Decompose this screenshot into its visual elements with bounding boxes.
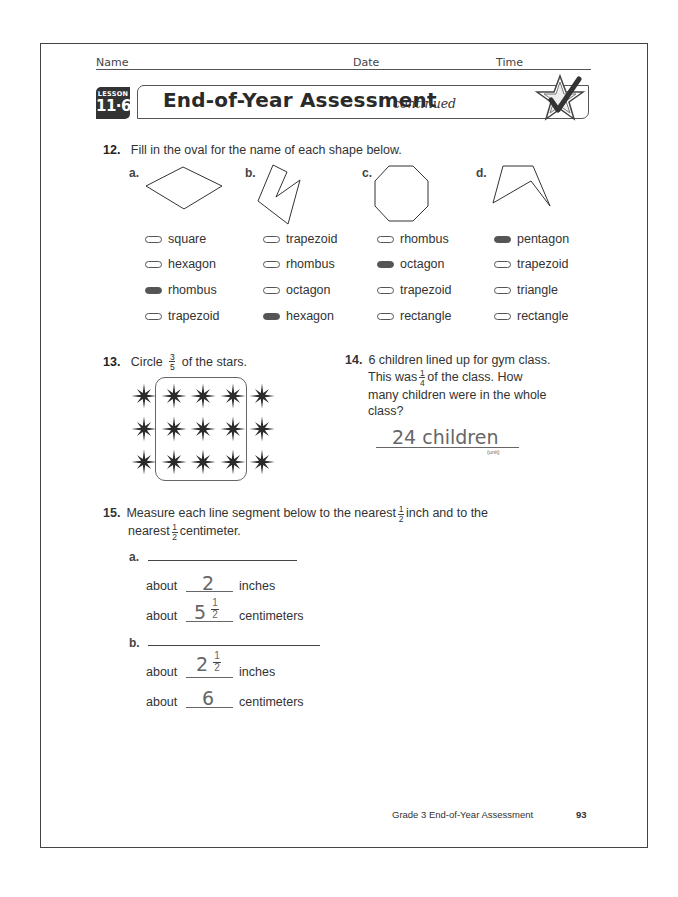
option-label: trapezoid bbox=[286, 232, 337, 246]
option-label: trapezoid bbox=[517, 257, 568, 271]
q12-prompt-row: 12. Fill in the oval for the name of eac… bbox=[103, 140, 402, 158]
q15b-inches-answer-whole[interactable]: 2 bbox=[196, 653, 208, 675]
star-icon bbox=[161, 449, 187, 475]
fraction-denominator: 2 bbox=[212, 610, 218, 620]
option-label: rectangle bbox=[400, 309, 451, 323]
q15b-cm-unit: centimeters bbox=[239, 695, 304, 709]
option-b-octagon[interactable]: octagon bbox=[263, 283, 330, 297]
q15b-inches-prefix: about bbox=[146, 665, 177, 679]
oval-radio[interactable] bbox=[145, 236, 162, 243]
option-c-rhombus[interactable]: rhombus bbox=[377, 232, 449, 246]
option-b-rhombus[interactable]: rhombus bbox=[263, 257, 335, 271]
oval-radio[interactable] bbox=[494, 261, 511, 268]
star-icon bbox=[220, 416, 246, 442]
option-d-pentagon[interactable]: pentagon bbox=[494, 232, 569, 246]
q15b-inches-answer-fraction[interactable]: 12 bbox=[213, 651, 221, 673]
q13-prompt-row: 13. Circle 35 of the stars. bbox=[103, 352, 247, 371]
oval-radio-filled[interactable] bbox=[145, 287, 162, 294]
fraction-denominator: 4 bbox=[420, 379, 425, 387]
option-label: square bbox=[168, 232, 206, 246]
page-number: 93 bbox=[576, 809, 587, 820]
star-icon bbox=[131, 416, 157, 442]
option-label: rectangle bbox=[517, 309, 568, 323]
q14-answer[interactable]: 24 children bbox=[392, 426, 498, 448]
q15-fraction-1: 12 bbox=[398, 505, 404, 523]
q15-line1-after: inch and to the bbox=[406, 506, 488, 520]
star-icon bbox=[161, 383, 187, 409]
fraction-numerator: 1 bbox=[212, 598, 218, 608]
q13-prompt-after: of the stars. bbox=[182, 355, 247, 369]
option-label: triangle bbox=[517, 283, 558, 297]
oval-radio[interactable] bbox=[145, 313, 162, 320]
option-d-rectangle[interactable]: rectangle bbox=[494, 309, 568, 323]
q14-line3: many children were in the whole bbox=[345, 387, 550, 404]
q14-line4: class? bbox=[345, 403, 550, 420]
fraction-numerator: 1 bbox=[172, 523, 177, 531]
q13-fraction: 35 bbox=[169, 353, 175, 371]
q15-block: 15.Measure each line segment below to th… bbox=[103, 505, 488, 541]
option-b-hexagon[interactable]: hexagon bbox=[263, 309, 334, 323]
star-icon bbox=[190, 383, 216, 409]
option-a-trapezoid[interactable]: trapezoid bbox=[145, 309, 219, 323]
option-label: octagon bbox=[286, 283, 330, 297]
star-icon bbox=[131, 383, 157, 409]
option-d-trapezoid[interactable]: trapezoid bbox=[494, 257, 568, 271]
oval-radio-filled[interactable] bbox=[377, 261, 394, 268]
q12-letter-d: d. bbox=[476, 166, 487, 180]
oval-radio-filled[interactable] bbox=[494, 236, 511, 243]
fraction-numerator: 1 bbox=[399, 505, 404, 513]
oval-radio[interactable] bbox=[494, 287, 511, 294]
option-b-trapezoid[interactable]: trapezoid bbox=[263, 232, 337, 246]
oval-radio-filled[interactable] bbox=[263, 313, 280, 320]
option-c-octagon[interactable]: octagon bbox=[377, 257, 444, 271]
q15-letter-b: b. bbox=[129, 636, 140, 650]
fraction-denominator: 2 bbox=[399, 515, 404, 523]
option-label: rhombus bbox=[286, 257, 335, 271]
oval-radio[interactable] bbox=[494, 313, 511, 320]
fraction-numerator: 1 bbox=[214, 651, 220, 661]
fraction-denominator: 2 bbox=[172, 533, 177, 541]
option-c-rectangle[interactable]: rectangle bbox=[377, 309, 451, 323]
oval-radio[interactable] bbox=[377, 236, 394, 243]
q13-number: 13. bbox=[103, 355, 120, 369]
q15a-cm-answer-fraction[interactable]: 12 bbox=[211, 598, 219, 620]
q14-fraction: 14 bbox=[419, 369, 425, 387]
q14-block: 14.6 children lined up for gym class. Th… bbox=[345, 352, 550, 420]
oval-radio[interactable] bbox=[263, 261, 280, 268]
q14-line2-after: of the class. How bbox=[427, 370, 522, 384]
fraction-denominator: 5 bbox=[170, 363, 175, 371]
q15b-cm-answer[interactable]: 6 bbox=[202, 687, 214, 709]
oval-radio[interactable] bbox=[263, 287, 280, 294]
q15a-inches-answer[interactable]: 2 bbox=[202, 572, 214, 594]
option-c-trapezoid[interactable]: trapezoid bbox=[377, 283, 451, 297]
option-label: pentagon bbox=[517, 232, 569, 246]
option-d-triangle[interactable]: triangle bbox=[494, 283, 558, 297]
star-icon bbox=[220, 449, 246, 475]
star-icon bbox=[249, 449, 275, 475]
oval-radio[interactable] bbox=[263, 236, 280, 243]
star-icon bbox=[220, 383, 246, 409]
q14-number: 14. bbox=[345, 353, 362, 367]
footer-text: Grade 3 End-of-Year Assessment bbox=[392, 809, 533, 820]
star-icon bbox=[190, 449, 216, 475]
lesson-number: 11·6 bbox=[96, 98, 130, 115]
star-icon bbox=[190, 416, 216, 442]
header-rule bbox=[96, 69, 591, 70]
q12-prompt: Fill in the oval for the name of each sh… bbox=[131, 143, 402, 157]
q15b-inches-line bbox=[186, 677, 233, 678]
q15b-inches-unit: inches bbox=[239, 665, 275, 679]
oval-radio[interactable] bbox=[145, 261, 162, 268]
q15-line2-after: centimeter. bbox=[180, 524, 241, 538]
option-a-hexagon[interactable]: hexagon bbox=[145, 257, 216, 271]
q14-answer-line bbox=[376, 447, 519, 448]
fraction-numerator: 3 bbox=[170, 353, 175, 361]
oval-radio[interactable] bbox=[377, 313, 394, 320]
option-a-rhombus[interactable]: rhombus bbox=[145, 283, 217, 297]
q14-unit-label: (unit) bbox=[487, 449, 500, 455]
star-icon bbox=[161, 416, 187, 442]
option-label: trapezoid bbox=[400, 283, 451, 297]
q15a-cm-answer-whole[interactable]: 5 bbox=[194, 601, 206, 623]
q15-line2-before: nearest bbox=[128, 524, 170, 538]
option-a-square[interactable]: square bbox=[145, 232, 206, 246]
oval-radio[interactable] bbox=[377, 287, 394, 294]
